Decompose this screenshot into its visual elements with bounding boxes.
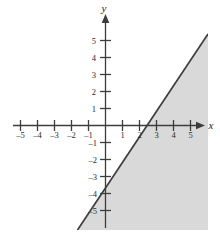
y-tick-label: 1 [92, 104, 96, 114]
coordinate-plane-svg: –5 –4 –3 –2 –1 1 2 3 4 5 5 4 3 2 1 –1 –2… [0, 0, 220, 238]
y-tick-label: –1 [88, 138, 98, 148]
y-tick-label: –3 [88, 172, 98, 182]
y-tick-label: 3 [92, 70, 96, 80]
x-tick-label: 1 [120, 130, 124, 140]
y-tick-label: 5 [92, 36, 96, 46]
x-tick-label: –3 [49, 130, 59, 140]
x-axis-label: x [208, 119, 214, 131]
x-tick-label: –2 [66, 130, 76, 140]
x-tick-label: –5 [15, 130, 25, 140]
y-axis-label: y [101, 2, 107, 14]
y-tick-label: 2 [92, 87, 96, 97]
y-tick-label: –4 [88, 189, 98, 199]
y-tick-label: 4 [92, 53, 97, 63]
y-tick-label: –2 [88, 155, 98, 165]
coordinate-graph-figure: –5 –4 –3 –2 –1 1 2 3 4 5 5 4 3 2 1 –1 –2… [0, 0, 220, 238]
x-tick-label: 5 [188, 130, 192, 140]
x-tick-label: –4 [32, 130, 42, 140]
y-tick-label: –5 [88, 206, 98, 216]
x-tick-label: 3 [154, 130, 158, 140]
x-tick-label: 2 [137, 130, 141, 140]
